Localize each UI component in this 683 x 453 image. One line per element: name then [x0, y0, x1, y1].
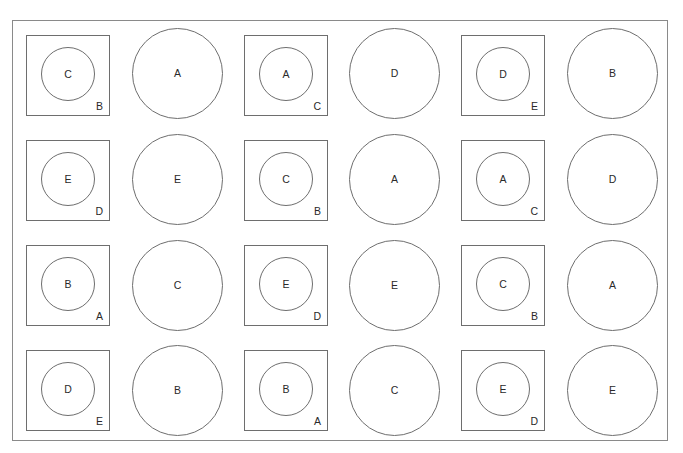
square-r2-c5: A C: [461, 140, 545, 221]
square-r2-c3: C B: [244, 140, 328, 221]
square-r4-c1: D E: [26, 350, 110, 431]
inner-label: C: [64, 69, 72, 80]
inner-circle: B: [259, 362, 313, 416]
square-r1-c3: A C: [244, 35, 328, 116]
corner-label: B: [96, 101, 103, 112]
circle-r2-c4: A: [349, 134, 440, 225]
square-r3-c3: E D: [244, 245, 328, 326]
inner-circle: D: [41, 362, 95, 416]
inner-label: C: [282, 174, 290, 185]
corner-label: C: [530, 206, 538, 217]
circle-label: E: [391, 280, 398, 291]
circle-label: D: [609, 174, 617, 185]
corner-label: E: [531, 101, 538, 112]
circle-r4-c4: C: [349, 345, 440, 436]
inner-label: C: [499, 279, 507, 290]
corner-label: A: [314, 416, 321, 427]
inner-label: D: [64, 384, 72, 395]
inner-label: E: [499, 384, 506, 395]
inner-label: B: [64, 279, 71, 290]
corner-label: C: [313, 101, 321, 112]
circle-r3-c4: E: [349, 240, 440, 331]
circle-label: A: [609, 280, 616, 291]
square-r1-c5: D E: [461, 35, 545, 116]
diagram-canvas: C B A A C D D E B E D E C B A: [0, 0, 683, 453]
inner-label: E: [64, 174, 71, 185]
circle-r4-c6: E: [567, 345, 658, 436]
inner-circle: B: [41, 257, 95, 311]
corner-label: B: [531, 311, 538, 322]
circle-label: B: [609, 68, 616, 79]
inner-circle: E: [41, 152, 95, 206]
square-r3-c5: C B: [461, 245, 545, 326]
inner-label: A: [282, 69, 289, 80]
circle-r1-c4: D: [349, 28, 440, 119]
circle-label: C: [391, 385, 399, 396]
inner-circle: C: [476, 257, 530, 311]
circle-r3-c6: A: [567, 240, 658, 331]
circle-label: B: [174, 385, 181, 396]
square-r4-c3: B A: [244, 350, 328, 431]
square-r2-c1: E D: [26, 140, 110, 221]
circle-label: E: [174, 174, 181, 185]
circle-r1-c2: A: [132, 28, 223, 119]
circle-label: D: [391, 68, 399, 79]
circle-r1-c6: B: [567, 28, 658, 119]
square-r1-c1: C B: [26, 35, 110, 116]
inner-label: E: [282, 279, 289, 290]
inner-circle: C: [41, 47, 95, 101]
circle-label: A: [391, 174, 398, 185]
circle-r3-c2: C: [132, 240, 223, 331]
corner-label: D: [313, 311, 321, 322]
inner-circle: D: [476, 47, 530, 101]
inner-label: B: [282, 384, 289, 395]
inner-label: A: [499, 174, 506, 185]
corner-label: D: [95, 206, 103, 217]
circle-label: E: [609, 385, 616, 396]
circle-r4-c2: B: [132, 345, 223, 436]
inner-circle: E: [259, 257, 313, 311]
corner-label: B: [314, 206, 321, 217]
square-r4-c5: E D: [461, 350, 545, 431]
circle-r2-c6: D: [567, 134, 658, 225]
circle-r2-c2: E: [132, 134, 223, 225]
inner-circle: C: [259, 152, 313, 206]
corner-label: A: [96, 311, 103, 322]
circle-label: A: [174, 68, 181, 79]
corner-label: D: [530, 416, 538, 427]
inner-label: D: [499, 69, 507, 80]
inner-circle: A: [259, 47, 313, 101]
inner-circle: A: [476, 152, 530, 206]
square-r3-c1: B A: [26, 245, 110, 326]
corner-label: E: [96, 416, 103, 427]
inner-circle: E: [476, 362, 530, 416]
circle-label: C: [174, 280, 182, 291]
